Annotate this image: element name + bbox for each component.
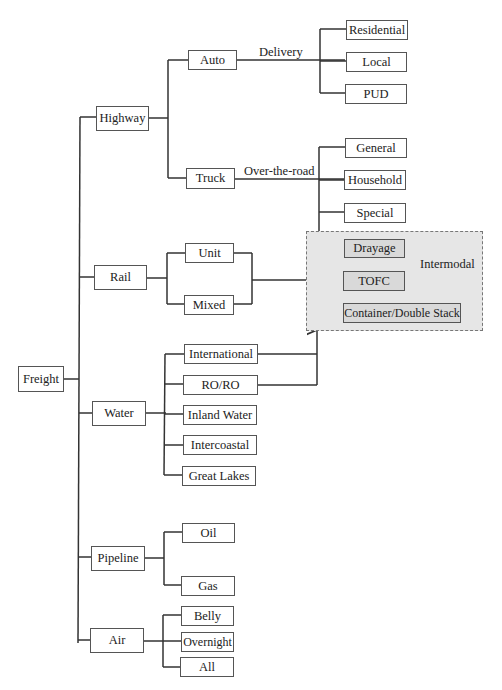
node-rail: Rail (94, 265, 147, 290)
intermodal-label: Intermodal (420, 257, 475, 272)
node-intercoastal: Intercoastal (183, 435, 257, 455)
node-freight: Freight (18, 366, 64, 392)
node-special: Special (344, 203, 406, 223)
node-belly: Belly (181, 606, 234, 626)
node-household: Household (344, 170, 406, 190)
node-pipeline: Pipeline (91, 546, 145, 571)
node-truck: Truck (186, 168, 235, 189)
node-unit: Unit (185, 243, 234, 263)
node-inland-water: Inland Water (183, 405, 257, 425)
freight-taxonomy-diagram: Intermodal Freight Highway Auto Delivery… (0, 0, 502, 690)
node-water: Water (92, 401, 146, 426)
node-mixed: Mixed (184, 295, 234, 315)
node-highway: Highway (96, 106, 149, 131)
node-international: International (184, 344, 258, 364)
node-overnight: Overnight (181, 632, 234, 652)
node-tofc: TOFC (343, 271, 405, 291)
node-gas: Gas (181, 576, 235, 596)
node-drayage: Drayage (344, 239, 405, 258)
node-local: Local (346, 52, 407, 72)
node-container-double-stack: Container/Double Stack (343, 303, 461, 323)
node-ro-ro: RO/RO (183, 375, 258, 395)
node-great-lakes: Great Lakes (182, 466, 256, 486)
node-pud: PUD (345, 84, 407, 104)
edge-label-delivery: Delivery (259, 45, 303, 60)
node-residential: Residential (346, 20, 408, 40)
node-general: General (345, 138, 407, 158)
node-air: Air (90, 628, 144, 653)
node-auto: Auto (188, 50, 237, 70)
node-all: All (180, 657, 234, 677)
node-oil: Oil (182, 523, 235, 543)
edge-label-over-the-road: Over-the-road (244, 164, 315, 179)
